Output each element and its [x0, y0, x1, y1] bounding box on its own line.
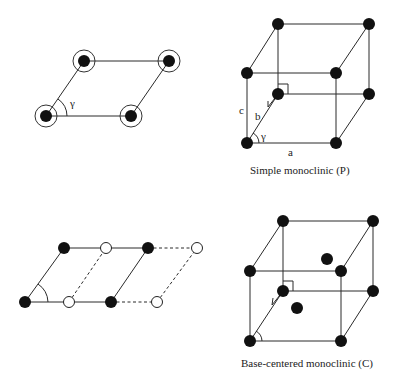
caption-simple-monoclinic: Simple monoclinic (P): [250, 164, 350, 177]
lattice-point: [272, 88, 284, 100]
gamma-angle-arc: [256, 331, 262, 341]
lattice-point: [367, 215, 379, 227]
dashed-edge: [69, 248, 106, 302]
lattice-point: [330, 137, 342, 149]
edge: [336, 94, 369, 143]
monoclinic-lattice-figure: γ c b γ a: [0, 0, 399, 375]
lattice-point: [363, 88, 375, 100]
axis-label-c: c: [239, 104, 244, 116]
lattice-point: [330, 67, 342, 79]
edge: [341, 221, 373, 271]
edge: [336, 24, 369, 73]
lattice-point: [241, 67, 253, 79]
axis-label-a: a: [288, 146, 293, 158]
lattice-point: [367, 285, 379, 297]
edge: [250, 221, 283, 271]
lattice-point: [58, 242, 70, 254]
lattice-point: [272, 18, 284, 30]
panel-base-centered-monoclinic: Base-centered monoclinic (C): [241, 215, 379, 370]
panel-2d-centered-lattice: [19, 242, 203, 308]
edge: [131, 61, 169, 116]
panel-2d-primitive-lattice: γ: [35, 50, 180, 127]
lattice-point: [244, 335, 256, 347]
base-center-point: [321, 253, 333, 265]
lattice-point: [163, 55, 175, 67]
edge: [250, 291, 283, 341]
centered-point: [152, 297, 163, 308]
centered-point: [64, 297, 75, 308]
centered-point: [101, 243, 112, 254]
lattice-point: [78, 55, 90, 67]
caption-base-centered-monoclinic: Base-centered monoclinic (C): [241, 357, 373, 370]
lattice-point: [335, 265, 347, 277]
lattice-point: [277, 285, 289, 297]
axis-label-b: b: [255, 110, 261, 122]
edge: [111, 248, 148, 302]
lattice-point: [142, 242, 154, 254]
gamma-label: γ: [260, 130, 266, 142]
edge: [247, 24, 278, 73]
lattice-point: [277, 215, 289, 227]
angle-arc: [38, 284, 48, 302]
dashed-edge: [157, 248, 197, 302]
lattice-point: [335, 335, 347, 347]
right-angle-marker: [272, 295, 280, 305]
gamma-label: γ: [69, 97, 75, 109]
lattice-point: [19, 296, 31, 308]
lattice-point: [105, 296, 117, 308]
lattice-point: [363, 18, 375, 30]
edge: [25, 248, 64, 302]
edge: [341, 291, 373, 341]
right-angle-marker: [268, 98, 275, 107]
lattice-point: [244, 265, 256, 277]
centered-point: [192, 243, 203, 254]
gamma-angle-arc: [253, 133, 259, 143]
lattice-point: [40, 110, 52, 122]
lattice-point: [241, 137, 253, 149]
base-center-point: [291, 302, 303, 314]
panel-simple-monoclinic: c b γ a Simple monoclinic (P): [239, 18, 375, 177]
gamma-angle-arc: [58, 99, 67, 116]
lattice-point: [125, 110, 137, 122]
